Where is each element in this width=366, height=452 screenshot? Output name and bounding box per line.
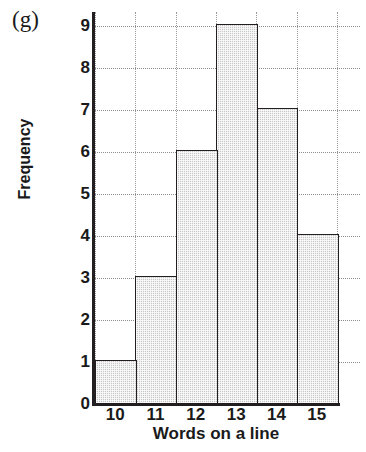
plot-area [95, 26, 337, 404]
x-tick-10: 10 [95, 406, 135, 423]
x-axis-title: Words on a line [95, 424, 337, 444]
x-tick-11: 11 [136, 406, 176, 423]
bar-15 [297, 234, 339, 404]
bar-13 [216, 24, 258, 404]
histogram-figure: (g) Frequency 0123456789 101112131415 Wo… [0, 0, 366, 452]
x-tick-14: 14 [257, 406, 297, 423]
bar-11 [135, 276, 177, 404]
x-tick-13: 13 [216, 406, 256, 423]
bar-14 [256, 108, 298, 404]
x-tick-15: 15 [297, 406, 337, 423]
gridline-x-0 [95, 12, 96, 404]
x-tick-12: 12 [176, 406, 216, 423]
bar-12 [176, 150, 218, 404]
y-axis-line [92, 12, 95, 406]
bar-10 [95, 360, 137, 404]
